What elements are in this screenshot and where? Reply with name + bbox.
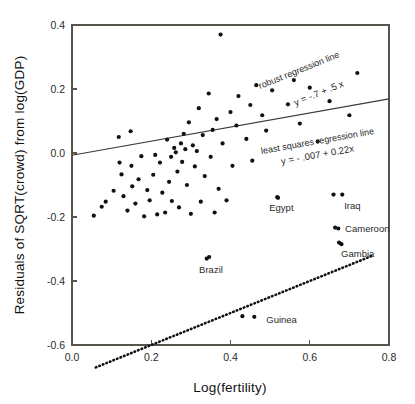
- data-point: [230, 164, 234, 168]
- data-point: [199, 200, 203, 204]
- data-point: [250, 159, 254, 163]
- data-point: [172, 146, 176, 150]
- scatter-plot-figure: 0.00.20.40.60.8 0.40.20.0-0.2-0.4-0.6 Eg…: [0, 0, 415, 404]
- plot-frame: [72, 25, 389, 345]
- y-tick-label: 0.2: [50, 83, 65, 95]
- data-points: [92, 33, 360, 319]
- data-point: [151, 173, 155, 177]
- data-point: [224, 198, 228, 202]
- x-tick-label: 0.4: [223, 351, 238, 363]
- data-point: [292, 78, 296, 82]
- data-point: [201, 133, 205, 137]
- data-point: [160, 191, 164, 195]
- data-point: [163, 210, 167, 214]
- country-label: Iraq: [344, 200, 360, 211]
- data-point: [180, 160, 184, 164]
- axes: [72, 25, 389, 345]
- data-point: [121, 194, 125, 198]
- robust-regression-equation: y = -.7 + .5 x: [292, 78, 345, 108]
- y-tick-label: -0.2: [47, 211, 65, 223]
- data-point: [153, 153, 157, 157]
- regression-annotations: robust regression liney = -.7 + .5 xleas…: [257, 49, 375, 166]
- data-point: [211, 128, 215, 132]
- annotated-data-points: EgyptIraqCameroonGambiaBrazilGuinea: [199, 193, 389, 325]
- x-axis-title: Log(fertility): [193, 380, 266, 395]
- data-point: [213, 210, 217, 214]
- data-point: [179, 141, 183, 145]
- data-point: [175, 169, 179, 173]
- y-tick-label: -0.4: [47, 275, 65, 287]
- data-point: [209, 155, 213, 159]
- data-point: [248, 103, 252, 107]
- data-point: [112, 189, 116, 193]
- data-point: [228, 110, 232, 114]
- country-label: Brazil: [199, 264, 223, 275]
- country-label: Gambia: [341, 248, 375, 259]
- data-point: [130, 184, 134, 188]
- x-tick-label: 0.0: [65, 351, 80, 363]
- data-point: [133, 201, 137, 205]
- data-point: [298, 121, 302, 125]
- data-point: [189, 212, 193, 216]
- annotated-data-point: [337, 241, 341, 245]
- data-point: [129, 129, 133, 133]
- data-point: [244, 137, 248, 141]
- data-point: [100, 205, 104, 209]
- data-point: [170, 199, 174, 203]
- data-point: [286, 102, 290, 106]
- data-point: [119, 172, 123, 176]
- annotated-data-point: [207, 255, 211, 259]
- data-point: [158, 161, 162, 165]
- data-point: [183, 147, 187, 151]
- data-point: [165, 137, 169, 141]
- data-point: [195, 149, 199, 153]
- data-point: [148, 198, 152, 202]
- data-point: [240, 314, 244, 318]
- y-tick-label: -0.6: [47, 339, 65, 351]
- y-axis-title: Residuals of SQRT(crowd) from log(GDP): [12, 56, 27, 315]
- data-point: [174, 150, 178, 154]
- data-point: [264, 129, 268, 133]
- data-point: [236, 94, 240, 98]
- data-point: [155, 212, 159, 216]
- country-label: Egypt: [269, 202, 294, 213]
- data-point: [169, 155, 173, 159]
- y-tick-label: 0.0: [50, 147, 65, 159]
- x-tick-label: 0.6: [302, 351, 317, 363]
- data-point: [217, 187, 221, 191]
- data-point: [260, 113, 264, 117]
- data-point: [197, 106, 201, 110]
- data-point: [331, 193, 335, 197]
- data-point: [234, 123, 238, 127]
- data-point: [104, 200, 108, 204]
- data-point: [191, 143, 195, 147]
- data-point: [355, 71, 359, 75]
- country-label: Cameroon: [345, 223, 389, 234]
- data-point: [177, 205, 181, 209]
- data-point: [185, 183, 189, 187]
- data-point: [142, 214, 146, 218]
- data-point: [92, 214, 96, 218]
- data-point: [187, 120, 191, 124]
- data-point: [270, 88, 274, 92]
- chart-canvas: 0.00.20.40.60.8 0.40.20.0-0.2-0.4-0.6 Eg…: [0, 0, 415, 404]
- data-point: [203, 174, 207, 178]
- data-point: [182, 132, 186, 136]
- annotated-data-point: [275, 195, 279, 199]
- data-point: [218, 33, 222, 37]
- data-point: [193, 164, 197, 168]
- data-point: [207, 91, 211, 95]
- data-point: [139, 154, 143, 158]
- country-label: Guinea: [266, 314, 297, 325]
- annotated-data-point: [340, 193, 344, 197]
- data-point: [220, 141, 224, 145]
- data-point: [136, 177, 140, 181]
- annotated-data-point: [333, 225, 337, 229]
- data-point: [117, 135, 121, 139]
- data-point: [117, 161, 121, 165]
- data-point: [347, 113, 351, 117]
- data-point: [327, 99, 331, 103]
- x-tick-label: 0.2: [144, 351, 159, 363]
- annotated-data-point: [252, 315, 256, 319]
- data-point: [215, 117, 219, 121]
